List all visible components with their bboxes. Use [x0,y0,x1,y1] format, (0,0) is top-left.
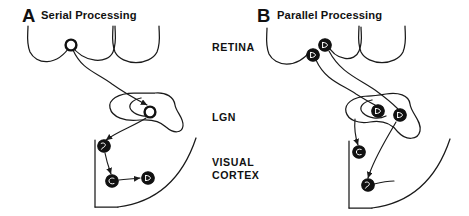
node-b-retina-2[interactable] [319,39,332,52]
figure-root: A Serial Processing [0,0,469,216]
path-b-retina2-to-lgn2 [329,51,398,109]
node-a-cortex-3[interactable] [142,172,155,185]
retina-arc-left-b [71,26,116,60]
panel-a: A Serial Processing [22,5,196,207]
label-cortex: CORTEX [212,169,259,181]
label-visual: VISUAL [212,156,254,168]
visual-pathway-diagram: A Serial Processing [0,0,469,216]
path-b-lgn2-to-cortex2 [368,122,396,178]
retina-arc-right [113,26,160,63]
path-b-lgn1-to-cortex1 [355,119,358,145]
panel-b-letter: B [257,5,270,26]
lgn-blob-b [346,93,421,138]
node-b-cortex-2[interactable] [362,179,375,192]
panel-b: B Parallel Processing [257,5,450,208]
panel-b-retina-arcs [267,26,406,64]
retina-arc-left-b-b [327,27,362,59]
tail-b-cortex2 [374,181,394,184]
node-b-cortex-1[interactable] [353,146,366,159]
label-lgn: LGN [212,111,236,123]
label-retina: RETINA [212,41,255,53]
node-b-retina-1[interactable] [307,49,320,62]
retina-arc-right-b [359,26,406,63]
region-label-column: RETINA LGN VISUAL CORTEX [212,41,259,181]
path-a-cortex2-to-cortex3 [119,178,140,180]
path-a-cortex1-to-cortex2 [105,153,111,174]
cortex-arc-a [118,138,196,207]
panel-a-title: Serial Processing [41,9,137,21]
node-b-lgn-2[interactable] [394,109,407,122]
panel-b-title: Parallel Processing [277,9,382,21]
panel-b-lgn-outline [346,93,421,138]
node-a-cortex-1[interactable] [98,140,111,153]
retina-arc-left-a [28,26,72,62]
path-b-retina1-to-lgn1 [316,60,375,105]
node-a-lgn-1[interactable] [145,107,156,118]
node-a-retina-1[interactable] [66,40,77,51]
panel-a-retina-arcs [28,26,160,63]
node-b-lgn-1[interactable] [372,105,385,118]
path-a-lgn-to-cortex1 [106,118,146,140]
panel-a-letter: A [22,5,35,26]
cortex-arc-b [372,139,450,208]
path-a-retina-to-lgn [73,50,147,105]
retina-arc-left-a-b [267,28,312,64]
node-a-cortex-2[interactable] [106,175,119,188]
